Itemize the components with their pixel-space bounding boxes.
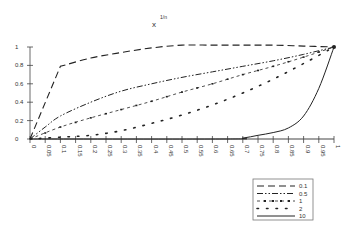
y-tick-label: 0.2 (15, 118, 24, 124)
x-tick-label: 0.55 (198, 145, 204, 157)
x-tick-label: 0.3 (122, 145, 128, 154)
series-1 (30, 47, 334, 139)
x-tick-label: 0.95 (320, 145, 326, 157)
y-axis: 00.20.40.60.81 (15, 44, 33, 142)
x-tick-label: 0.85 (289, 145, 295, 157)
chart-canvas: x 1/n 00.20.40.60.81 00.050.10.150.20.25… (0, 0, 350, 229)
y-tick-label: 0 (15, 136, 19, 142)
x-tick-label: 1 (335, 145, 341, 149)
x-tick-label: 0.7 (244, 145, 250, 154)
x-tick-label: 0.5 (183, 145, 189, 154)
x-tick-label: 0.2 (92, 145, 98, 154)
x-tick-label: 0.65 (229, 145, 235, 157)
x-tick-label: 0.6 (213, 145, 219, 154)
x-tick-label: 0.45 (168, 145, 174, 157)
chart-title: x 1/n (152, 14, 167, 29)
y-tick-label: 0.4 (15, 99, 24, 105)
series-layer (30, 45, 336, 139)
y-tick-label: 1 (15, 44, 19, 50)
x-tick-label: 0.15 (77, 145, 83, 157)
x-tick-label: 0.9 (305, 145, 311, 154)
legend-label: 10 (299, 213, 306, 219)
x-tick-label: 0.4 (153, 145, 159, 154)
series-2 (30, 47, 334, 139)
chart-title-superscript: 1/n (160, 14, 167, 20)
legend-label: 0.5 (299, 191, 308, 197)
legend: 0.10.51210 (253, 179, 313, 220)
chart-title-base: x (152, 20, 156, 29)
endpoint-marker (332, 45, 336, 49)
y-tick-label: 0.8 (15, 62, 24, 68)
series-10 (30, 47, 334, 139)
x-tick-label: 0.35 (137, 145, 143, 157)
x-tick-label: 0 (31, 145, 37, 149)
x-tick-label: 0.25 (107, 145, 113, 157)
x-tick-label: 0.1 (61, 145, 67, 154)
x-tick-label: 0.75 (259, 145, 265, 157)
x-tick-label: 0.8 (274, 145, 280, 154)
y-tick-label: 0.6 (15, 81, 24, 87)
x-tick-label: 0.05 (46, 145, 52, 157)
series-0-5 (30, 47, 334, 139)
legend-label: 0.1 (299, 183, 308, 189)
